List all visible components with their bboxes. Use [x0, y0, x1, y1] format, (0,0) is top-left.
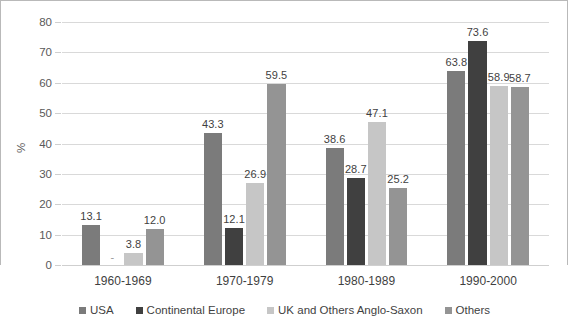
y-axis-tick-mark: [55, 174, 61, 175]
y-axis-tick-mark: [55, 83, 61, 84]
bar: 58.7: [511, 87, 529, 265]
bar-value-label: -: [110, 251, 114, 263]
bar: 47.1: [368, 122, 386, 265]
y-axis-tick-mark: [55, 52, 61, 53]
y-axis-tick-mark: [55, 144, 61, 145]
bar-value-label: 43.3: [202, 118, 224, 130]
y-axis-tick-label: 0: [0, 259, 52, 271]
y-axis-title: %: [15, 143, 27, 153]
legend-label: USA: [90, 304, 114, 316]
bar-value-label: 3.8: [126, 238, 142, 250]
bar-chart: 01020304050607080 % 13.1-3.812.043.312.1…: [0, 0, 569, 333]
y-axis-tick-label: 60: [0, 77, 52, 89]
legend-label: UK and Others Anglo-Saxon: [278, 304, 422, 316]
legend-swatch-icon: [79, 307, 86, 314]
bar-value-label: 59.5: [266, 69, 288, 81]
legend-swatch-icon: [136, 307, 143, 314]
legend-item[interactable]: UK and Others Anglo-Saxon: [267, 304, 422, 316]
bar: 25.2: [389, 188, 407, 265]
gridline: [62, 265, 549, 266]
x-axis-category-labels: 1960-19691970-19791980-19891990-2000: [62, 274, 549, 294]
bar-value-label: 26.9: [244, 168, 266, 180]
legend-label: Continental Europe: [147, 304, 245, 316]
bar: 63.8: [447, 71, 465, 265]
bar-group: 43.312.126.959.5: [184, 22, 306, 265]
bar-value-label: 38.6: [324, 133, 346, 145]
y-axis-tick-label: 20: [0, 198, 52, 210]
bar-value-label: 25.2: [387, 173, 409, 185]
bar-value-label: 28.7: [345, 163, 367, 175]
bar-value-label: 13.1: [80, 210, 102, 222]
y-axis-tick-mark: [55, 204, 61, 205]
bar-group: 38.628.747.125.2: [306, 22, 428, 265]
y-axis-tick-label: 10: [0, 229, 52, 241]
bar: 13.1: [82, 225, 100, 265]
bar: 28.7: [347, 178, 365, 265]
bar-group: 13.1-3.812.0: [62, 22, 184, 265]
bar-group: 63.873.658.958.7: [427, 22, 549, 265]
legend-item[interactable]: Continental Europe: [136, 304, 245, 316]
bar: 26.9: [246, 183, 264, 265]
y-axis-tick-label: 70: [0, 46, 52, 58]
y-axis-tick-mark: [55, 22, 61, 23]
bar: 38.6: [326, 148, 344, 265]
bar: 59.5: [267, 84, 285, 265]
bar: 73.6: [468, 41, 486, 265]
x-axis-tick-label: 1980-1989: [338, 274, 395, 288]
legend-item[interactable]: USA: [79, 304, 114, 316]
y-axis-tick-label: 30: [0, 168, 52, 180]
bar: 43.3: [204, 133, 222, 265]
plot-area: 13.1-3.812.043.312.126.959.538.628.747.1…: [62, 22, 549, 265]
bar-value-label: 58.9: [488, 71, 510, 83]
bar-value-label: 58.7: [509, 72, 531, 84]
bar: 58.9: [490, 86, 508, 265]
x-axis-tick-label: 1990-2000: [459, 274, 516, 288]
x-axis-tick-label: 1970-1979: [216, 274, 273, 288]
chart-legend: USAContinental EuropeUK and Others Anglo…: [0, 304, 569, 316]
y-axis-tick-mark: [55, 235, 61, 236]
legend-label: Others: [456, 304, 491, 316]
bar-value-label: 12.1: [223, 213, 245, 225]
y-axis-tick-mark: [55, 265, 61, 266]
legend-swatch-icon: [445, 307, 452, 314]
bar: 3.8: [124, 253, 142, 265]
bar-value-label: 47.1: [366, 107, 388, 119]
bar-value-label: 63.8: [445, 56, 467, 68]
y-axis-tick-mark: [55, 113, 61, 114]
bar: 12.1: [225, 228, 243, 265]
bar-value-label: 12.0: [144, 214, 166, 226]
y-axis-tick-label: 50: [0, 107, 52, 119]
bar: 12.0: [146, 229, 164, 265]
legend-item[interactable]: Others: [445, 304, 491, 316]
bar-value-label: 73.6: [467, 26, 489, 38]
x-axis-tick-label: 1960-1969: [94, 274, 151, 288]
y-axis-tick-label: 80: [0, 16, 52, 28]
legend-swatch-icon: [267, 307, 274, 314]
